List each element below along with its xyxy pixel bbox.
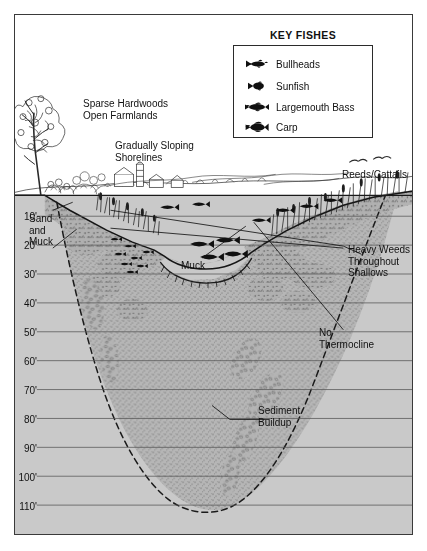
depth-label-100: 100'	[14, 472, 37, 483]
legend-item-bullheads: Bullheads	[243, 55, 320, 73]
depth-label-30: 30'	[14, 269, 37, 280]
depth-label-110: 110'	[14, 501, 37, 512]
legend-title: KEY FISHES	[233, 29, 373, 41]
depth-label-50: 50'	[14, 327, 37, 338]
annotation-heavy-weeds: Heavy Weeds Throughout Shallows	[348, 244, 410, 279]
annotation-sand-and-muck: Sand and Muck	[29, 213, 53, 248]
annotation-sediment-buildup: Sediment Buildup	[258, 405, 300, 428]
legend-label-bullheads: Bullheads	[276, 59, 320, 70]
depth-label-70: 70'	[14, 385, 37, 396]
diagram-stage: 10' 20' 30' 40' 50' 60' 70' 80' 90' 100'…	[0, 0, 427, 551]
legend-label-sunfish: Sunfish	[276, 81, 309, 92]
diagram-frame: 10' 20' 30' 40' 50' 60' 70' 80' 90' 100'…	[14, 14, 413, 535]
carp-fish-icon	[243, 120, 269, 134]
legend-box: Bullheads Sunfish	[233, 45, 373, 138]
annotation-reeds-cattails: Reeds/Cattails	[342, 169, 407, 181]
depth-label-40: 40'	[14, 298, 37, 309]
legend-label-largemouth-bass: Largemouth Bass	[276, 102, 354, 113]
legend-item-largemouth-bass: Largemouth Bass	[243, 98, 354, 116]
bullhead-fish-icon	[243, 57, 269, 71]
annotation-no-thermocline: No Thermocline	[319, 327, 374, 350]
legend-label-carp: Carp	[276, 122, 298, 133]
depth-label-80: 80'	[14, 414, 37, 425]
annotation-sparse-hardwoods: Sparse Hardwoods Open Farmlands	[83, 98, 168, 121]
legend-item-sunfish: Sunfish	[243, 77, 309, 95]
depth-label-90: 90'	[14, 443, 37, 454]
annotation-gradually-sloping: Gradually Sloping Shorelines	[115, 140, 194, 163]
annotation-muck: Muck	[181, 260, 205, 272]
legend-item-carp: Carp	[243, 118, 298, 136]
depth-label-60: 60'	[14, 356, 37, 367]
largemouth-bass-fish-icon	[243, 100, 269, 114]
sunfish-fish-icon	[243, 79, 269, 93]
